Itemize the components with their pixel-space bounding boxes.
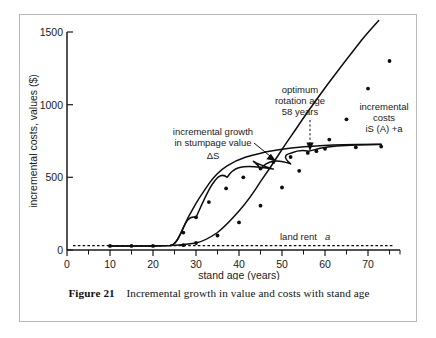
data-point [306, 151, 310, 155]
figure-caption-text: Incremental growth in value and costs wi… [126, 287, 369, 299]
data-point [181, 243, 185, 247]
x-ticklabel-60: 60 [319, 258, 331, 270]
data-point [280, 186, 284, 190]
data-point [216, 234, 220, 238]
data-point [224, 187, 228, 191]
y-ticklabel-500: 500 [45, 171, 63, 183]
figure-card: 1500 1000 500 0 [19, 14, 417, 322]
y-axis-ticks: 1500 1000 500 0 [40, 26, 73, 256]
incremental-costs-line3: iS (A) +a [365, 123, 403, 134]
series-stumpage-value-markers [108, 145, 383, 248]
data-point [181, 231, 185, 235]
optimum-rotation-line1: optimum [282, 84, 319, 95]
figure-caption: Figure 21 Incremental growth in value an… [20, 287, 418, 299]
figure-number: Figure 21 [68, 287, 114, 299]
data-point [379, 145, 383, 149]
data-point [289, 155, 293, 159]
data-point [194, 215, 198, 219]
x-axis-ticks: 0 10 20 30 40 50 60 70 [64, 250, 400, 270]
data-point [388, 59, 392, 63]
annotation-incremental-costs: incremental costs iS (A) +a [359, 101, 408, 134]
y-ticklabel-1500: 1500 [40, 26, 64, 38]
incremental-growth-line2: in stumpage value [174, 137, 251, 148]
chart-svg: 1500 1000 500 0 [20, 15, 418, 280]
x-ticklabel-70: 70 [362, 258, 374, 270]
data-point [241, 175, 245, 179]
data-point [345, 117, 349, 121]
data-point [323, 147, 327, 151]
data-point [151, 244, 155, 248]
land-rent-symbol: a [325, 231, 330, 242]
data-point [366, 87, 370, 91]
x-ticklabel-0: 0 [64, 258, 70, 270]
series-stumpage-value-path-clean [110, 144, 381, 246]
annotation-optimum-rotation: optimum rotation age 58 years [275, 84, 325, 151]
incremental-costs-line1: incremental [359, 101, 408, 112]
annotation-incremental-growth: incremental growth in stumpage value ΔS [173, 126, 276, 161]
y-axis-title: incremental costs, values ($) [27, 74, 39, 208]
series-stumpage-value-path [110, 144, 381, 245]
incremental-costs-line2: costs [373, 112, 395, 123]
chart-plot-area: 1500 1000 500 0 [20, 15, 418, 280]
optimum-rotation-line3: 58 years [282, 106, 319, 117]
data-point [194, 241, 198, 245]
annotation-land-rent: land rent a [280, 231, 330, 242]
x-ticklabel-20: 20 [147, 258, 159, 270]
y-ticklabel-0: 0 [57, 244, 63, 256]
data-point [297, 169, 301, 173]
data-point [207, 200, 211, 204]
data-point [315, 149, 319, 153]
data-point [108, 244, 112, 248]
series-stumpage-value [108, 144, 383, 248]
x-axis-title: stand age (years) [198, 269, 280, 280]
data-point [259, 167, 263, 171]
data-point [130, 244, 134, 248]
incremental-growth-symbol: ΔS [207, 150, 220, 161]
optimum-rotation-line2: rotation age [275, 95, 325, 106]
data-point [259, 204, 263, 208]
incremental-growth-line1: incremental growth [173, 126, 253, 137]
y-ticklabel-1000: 1000 [40, 99, 64, 111]
land-rent-label: land rent [280, 231, 317, 242]
data-point [237, 221, 241, 225]
data-point [354, 145, 358, 149]
x-ticklabel-10: 10 [104, 258, 116, 270]
data-point [327, 138, 331, 142]
